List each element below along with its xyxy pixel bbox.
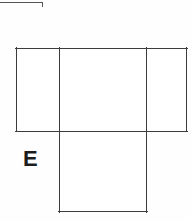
bottom-face-fill [59,131,147,212]
crop-mark-group [0,2,43,7]
left-face-fill [16,48,59,131]
net-label-E: E [23,148,38,170]
net-diagram [0,0,191,222]
middle-face-fill [59,48,147,131]
right-face-fill [147,48,187,131]
face-fill-group [16,48,187,212]
figure-canvas: E [0,0,191,222]
